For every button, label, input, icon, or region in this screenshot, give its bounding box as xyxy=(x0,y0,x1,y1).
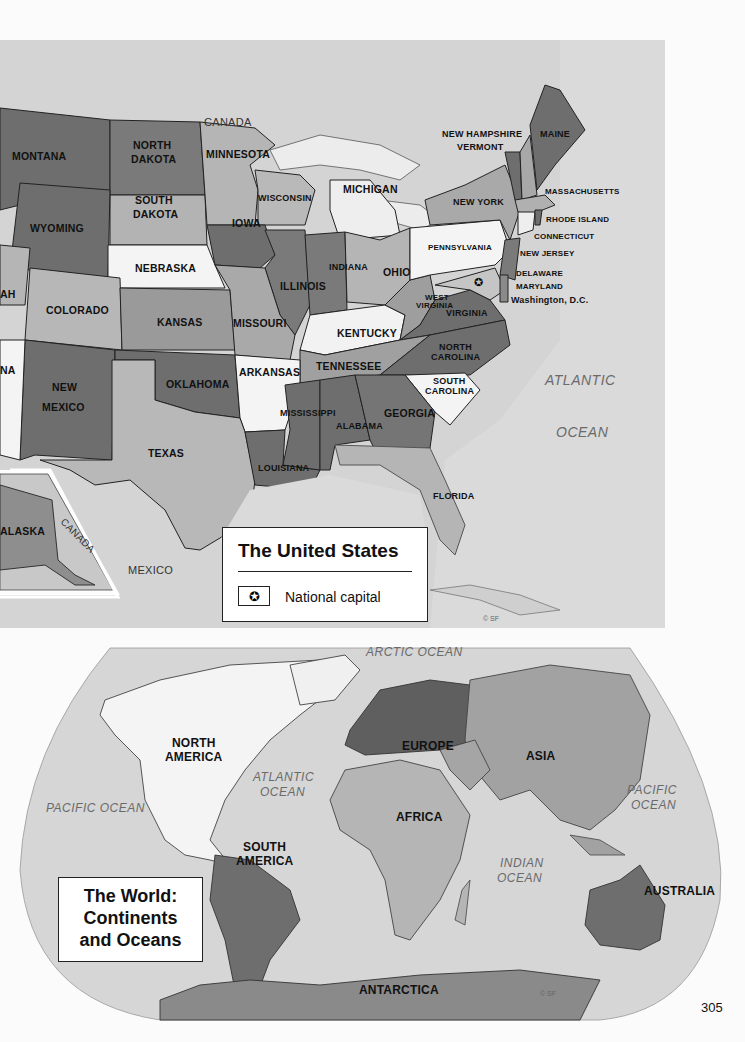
atlantic-ocean-label-2: OCEAN xyxy=(260,785,305,799)
world-map-title-line3: and Oceans xyxy=(59,929,202,951)
state-indiana: INDIANA xyxy=(329,262,368,272)
canada-label: CANADA xyxy=(204,116,252,128)
state-new-mexico-1: NEW xyxy=(52,381,77,393)
state-wisconsin: WISCONSIN xyxy=(258,193,312,203)
world-map-copyright: © SF xyxy=(540,990,556,997)
state-maine: MAINE xyxy=(540,129,570,139)
indian-ocean-label-2: OCEAN xyxy=(497,871,542,885)
legend-national-capital-label: National capital xyxy=(285,589,381,605)
continent-europe: EUROPE xyxy=(402,740,454,752)
state-missouri: MISSOURI xyxy=(233,317,287,329)
state-new-hampshire: NEW HAMPSHIRE xyxy=(442,129,522,139)
state-georgia: GEORGIA xyxy=(384,407,435,419)
us-map-title: The United States xyxy=(238,540,398,562)
state-delaware: DELAWARE xyxy=(516,269,563,279)
continent-north-america-1: NORTH xyxy=(172,736,216,750)
continent-australia: AUSTRALIA xyxy=(644,885,715,897)
continent-antarctica: ANTARCTICA xyxy=(359,984,439,996)
state-south-carolina-2: CAROLINA xyxy=(425,386,474,396)
continent-africa: AFRICA xyxy=(396,811,443,823)
state-alaska: ALASKA xyxy=(0,525,45,537)
world-map-shapes xyxy=(0,640,745,1040)
state-south-dakota-1: SOUTH xyxy=(135,194,173,206)
state-iowa: IOWA xyxy=(232,217,261,229)
arctic-ocean-label: ARCTIC OCEAN xyxy=(366,645,463,659)
state-connecticut: CONNECTICUT xyxy=(534,232,594,242)
world-map-title-line1: The World: xyxy=(59,885,202,907)
pacific-ocean-west-label: PACIFIC OCEAN xyxy=(46,801,145,815)
page-number: 305 xyxy=(701,1000,723,1015)
state-illinois: ILLINOIS xyxy=(280,280,326,292)
state-north-carolina-1: NORTH xyxy=(439,342,472,352)
continent-north-america-2: AMERICA xyxy=(165,750,222,764)
state-minnesota: MINNESOTA xyxy=(206,148,270,160)
state-arizona: NA xyxy=(0,364,16,376)
state-massachusetts: MASSACHUSETTS xyxy=(545,187,620,197)
atlantic-ocean-label-2: OCEAN xyxy=(556,424,608,440)
state-florida: FLORIDA xyxy=(433,491,474,501)
mexico-label: MEXICO xyxy=(128,564,173,576)
state-tennessee: TENNESSEE xyxy=(316,360,381,372)
state-colorado: COLORADO xyxy=(46,304,109,316)
state-montana: MONTANA xyxy=(12,150,66,162)
national-capital-symbol-icon: ✪ xyxy=(238,586,270,606)
state-new-jersey: NEW JERSEY xyxy=(520,249,574,259)
state-mississippi: MISSISSIPPI xyxy=(280,408,336,418)
legend-divider xyxy=(238,571,412,572)
state-north-dakota-1: NORTH xyxy=(133,139,171,151)
state-utah: AH xyxy=(0,288,16,300)
national-capital-star-icon: ✪ xyxy=(474,276,483,289)
state-nebraska: NEBRASKA xyxy=(135,262,196,274)
indian-ocean-label-1: INDIAN xyxy=(500,856,544,870)
state-vermont: VERMONT xyxy=(457,142,503,152)
continent-asia: ASIA xyxy=(526,750,555,762)
atlantic-ocean-label-1: ATLANTIC xyxy=(253,770,314,784)
atlantic-ocean-label-1: ATLANTIC xyxy=(545,372,616,388)
state-texas: TEXAS xyxy=(148,447,184,459)
world-map-title-box: The World: Continents and Oceans xyxy=(58,877,203,962)
us-map-copyright: © SF xyxy=(483,615,499,622)
pacific-ocean-east-label-1: PACIFIC xyxy=(627,783,677,797)
state-ohio: OHIO xyxy=(383,266,411,278)
state-arkansas: ARKANSAS xyxy=(239,366,300,378)
state-wyoming: WYOMING xyxy=(30,222,84,234)
state-kentucky: KENTUCKY xyxy=(337,327,397,339)
state-new-york: NEW YORK xyxy=(453,197,504,207)
world-map: ARCTIC OCEAN ATLANTIC OCEAN PACIFIC OCEA… xyxy=(0,640,745,1040)
state-south-carolina-1: SOUTH xyxy=(433,376,466,386)
state-michigan: MICHIGAN xyxy=(343,183,398,195)
continent-south-america-2: AMERICA xyxy=(236,854,293,868)
state-louisiana: LOUISIANA xyxy=(258,463,309,473)
state-rhode-island: RHODE ISLAND xyxy=(546,215,609,225)
state-north-dakota-2: DAKOTA xyxy=(131,153,176,165)
state-pennsylvania: PENNSYLVANIA xyxy=(428,243,492,253)
state-kansas: KANSAS xyxy=(157,316,203,328)
us-map-legend: The United States ✪ National capital xyxy=(222,527,428,622)
state-alabama: ALABAMA xyxy=(336,421,383,431)
state-south-dakota-2: DAKOTA xyxy=(133,208,178,220)
state-new-mexico-2: MEXICO xyxy=(42,401,85,413)
state-oklahoma: OKLAHOMA xyxy=(166,378,229,390)
state-north-carolina-2: CAROLINA xyxy=(431,352,480,362)
pacific-ocean-east-label-2: OCEAN xyxy=(631,798,676,812)
washington-dc-label: Washington, D.C. xyxy=(511,295,588,305)
continent-south-america-1: SOUTH xyxy=(243,840,286,854)
state-maryland: MARYLAND xyxy=(516,282,563,292)
state-west-virginia-2: VIRGINIA xyxy=(416,302,453,310)
world-map-title-line2: Continents xyxy=(59,907,202,929)
